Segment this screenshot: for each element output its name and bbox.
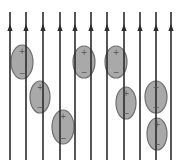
electric-field-diagram: +−+−+−+−+−+−−−+− bbox=[0, 0, 180, 164]
negative-charge-sign: − bbox=[81, 68, 88, 77]
positive-charge-sign: − bbox=[153, 83, 160, 92]
positive-charge-sign: + bbox=[154, 120, 161, 129]
positive-charge-sign: + bbox=[60, 112, 67, 121]
positive-charge-sign: + bbox=[19, 47, 26, 56]
molecule-group bbox=[11, 45, 167, 150]
negative-charge-sign: − bbox=[60, 134, 67, 143]
negative-charge-sign: − bbox=[19, 69, 26, 78]
arrow-up-icon bbox=[57, 24, 62, 31]
positive-charge-sign: + bbox=[37, 83, 44, 92]
arrow-up-icon bbox=[168, 24, 173, 31]
arrow-up-icon bbox=[121, 24, 126, 31]
arrow-up-icon bbox=[40, 24, 45, 31]
arrow-up-icon bbox=[137, 24, 142, 31]
arrow-up-icon bbox=[23, 24, 28, 31]
negative-charge-sign: − bbox=[37, 103, 44, 112]
negative-charge-sign: − bbox=[123, 109, 130, 118]
positive-charge-sign: + bbox=[81, 48, 88, 57]
arrow-up-icon bbox=[153, 24, 158, 31]
positive-charge-sign: + bbox=[113, 48, 120, 57]
arrow-up-icon bbox=[72, 24, 77, 31]
arrow-up-icon bbox=[88, 24, 93, 31]
positive-charge-sign: + bbox=[123, 89, 130, 98]
arrow-up-icon bbox=[7, 24, 12, 31]
arrow-up-icon bbox=[104, 24, 109, 31]
negative-charge-sign: − bbox=[153, 103, 160, 112]
negative-charge-sign: − bbox=[154, 140, 161, 149]
negative-charge-sign: − bbox=[113, 68, 120, 77]
